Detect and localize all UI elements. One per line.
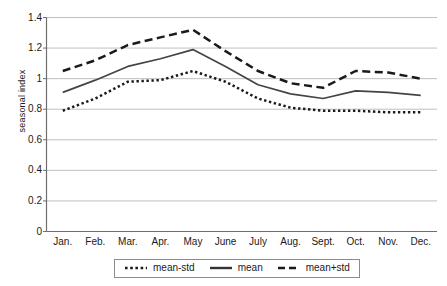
legend-item-mean-std: mean-std — [124, 263, 195, 273]
x-tick-label: Jan. — [53, 236, 72, 247]
axis-lines — [43, 18, 47, 232]
legend-item-mean-plus-std: mean+std — [277, 263, 350, 273]
seasonal-index-chart: seasonal index 00.20.40.60.811.21.4 Jan.… — [0, 0, 447, 286]
x-tick-label: Nov. — [378, 236, 398, 247]
gridlines — [47, 18, 438, 232]
x-tick-label: June — [215, 236, 237, 247]
x-tick-label: Apr. — [151, 236, 169, 247]
x-tick-label: Sept. — [311, 236, 334, 247]
legend-swatch-dashed-icon — [277, 263, 301, 273]
legend-label-mean-plus-std: mean+std — [306, 263, 350, 273]
series-line-mean-plus-std — [63, 30, 421, 88]
data-series-layer — [63, 30, 421, 113]
x-tick-label: Aug. — [280, 236, 301, 247]
x-tick-label: May — [183, 236, 202, 247]
x-tick-label: Feb. — [85, 236, 105, 247]
x-tick-label: July — [249, 236, 267, 247]
x-tick-label: Oct. — [346, 236, 364, 247]
x-tick-label: Mar. — [118, 236, 137, 247]
legend-label-mean-std: mean-std — [153, 263, 195, 273]
chart-legend: mean-std mean mean+std — [114, 259, 360, 278]
legend-swatch-dotted-icon — [124, 263, 148, 273]
legend-swatch-solid-icon — [209, 263, 233, 273]
legend-label-mean: mean — [238, 263, 263, 273]
x-axis-ticks: Jan.Feb.Mar.Apr.MayJuneJulyAug.Sept.Oct.… — [0, 236, 447, 252]
legend-item-mean: mean — [209, 263, 263, 273]
x-tick-label: Dec. — [410, 236, 431, 247]
